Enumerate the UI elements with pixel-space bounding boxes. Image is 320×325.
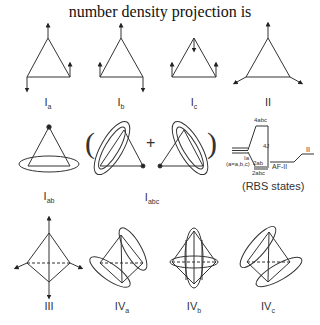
triangle-II	[235, 24, 301, 83]
tetrahedron-IVb	[170, 228, 218, 288]
level-note: (a=a,b,c)	[226, 161, 250, 167]
label-II: II	[265, 96, 271, 108]
label-Iab: Iab	[44, 190, 55, 204]
label-Ic: Ic	[191, 96, 198, 110]
label-IVb: IVb	[187, 300, 201, 314]
triangle-Ib	[100, 25, 143, 90]
label-Iabc: Iabc	[145, 191, 159, 205]
plus-sign: +	[146, 134, 155, 152]
gap-4J: 4J	[263, 143, 269, 149]
rbs-caption: (RBS states)	[242, 180, 304, 192]
tetrahedron-III	[16, 218, 81, 297]
triangle-Ic	[172, 38, 216, 77]
label-Ia: Ia	[45, 96, 52, 110]
level-4abc: 4abc	[254, 117, 267, 123]
level-II: II	[306, 146, 310, 153]
label-IVc: IVc	[261, 300, 275, 314]
level-2abc: 2abc	[252, 170, 265, 176]
triangle-Ia	[27, 25, 70, 90]
close-paren: )	[207, 126, 217, 160]
level-afii: AF-II	[272, 163, 287, 170]
label-III: III	[44, 300, 53, 312]
cone-Iabc-1	[87, 117, 145, 180]
label-IVa: IVa	[115, 300, 129, 314]
tetrahedron-IVa	[86, 224, 152, 292]
level-2ab: 2ab	[253, 160, 263, 166]
tetrahedron-IVc	[235, 222, 305, 292]
label-Ib: Ib	[118, 96, 125, 110]
open-paren: (	[85, 126, 95, 160]
cone-Iab	[19, 125, 79, 172]
